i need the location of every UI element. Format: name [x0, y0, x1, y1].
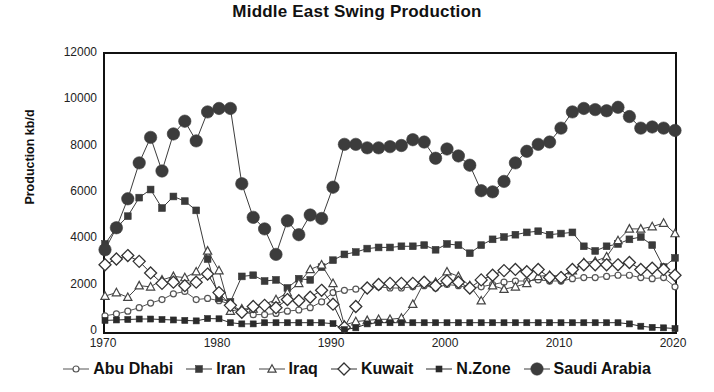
legend-label: Kuwait: [361, 360, 413, 378]
x-tick-label: 2020: [660, 336, 687, 350]
x-tick-label: 2010: [546, 336, 573, 350]
series-canvas: [105, 54, 675, 332]
legend-marker-icon: [426, 362, 452, 376]
y-tick-label: 8000: [51, 138, 97, 152]
legend-label: Iran: [216, 360, 245, 378]
x-tick-label: 2000: [432, 336, 459, 350]
legend-marker-icon: [524, 362, 550, 376]
page-title: Middle East Swing Production: [0, 2, 714, 22]
legend-item-saudi-arabia[interactable]: Saudi Arabia: [524, 360, 651, 378]
plot-area: [103, 52, 677, 334]
legend-label: Saudi Arabia: [554, 360, 651, 378]
y-tick-label: 2000: [51, 277, 97, 291]
legend-marker-icon: [63, 362, 89, 376]
y-tick-label: 6000: [51, 184, 97, 198]
y-tick-label: 12000: [51, 45, 97, 59]
x-tick-label: 1970: [90, 336, 117, 350]
y-tick-label: 0: [51, 323, 97, 337]
y-tick-label: 4000: [51, 230, 97, 244]
legend-marker-icon: [186, 362, 212, 376]
legend-label: N.Zone: [456, 360, 510, 378]
legend-label: Iraq: [289, 360, 318, 378]
legend-item-iraq[interactable]: Iraq: [259, 360, 318, 378]
legend-item-iran[interactable]: Iran: [186, 360, 245, 378]
y-axis-label: Production kb/d: [23, 72, 37, 242]
series-iraq: [101, 219, 679, 328]
legend-marker-icon: [331, 362, 357, 376]
chart-root: Middle East Swing Production Production …: [0, 0, 714, 392]
chart-legend: Abu DhabiIranIraqKuwaitN.ZoneSaudi Arabi…: [0, 360, 714, 378]
y-tick-label: 10000: [51, 91, 97, 105]
legend-marker-icon: [259, 362, 285, 376]
legend-item-abu-dhabi[interactable]: Abu Dhabi: [63, 360, 173, 378]
x-tick-label: 1990: [318, 336, 345, 350]
x-tick-label: 1980: [204, 336, 231, 350]
series-saudi-arabia: [99, 101, 681, 261]
legend-item-kuwait[interactable]: Kuwait: [331, 360, 413, 378]
legend-item-n-zone[interactable]: N.Zone: [426, 360, 510, 378]
legend-label: Abu Dhabi: [93, 360, 173, 378]
